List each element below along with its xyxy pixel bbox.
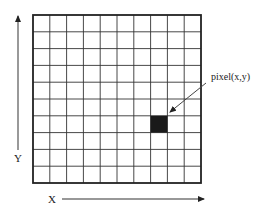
highlighted-pixel xyxy=(151,116,168,133)
y-axis-label: Y xyxy=(14,152,22,164)
x-axis-label: X xyxy=(48,193,56,205)
pixel-grid xyxy=(33,15,201,183)
pixel-grid-diagram: Y X pixel(x,y) xyxy=(0,0,258,213)
pixel-label: pixel(x,y) xyxy=(211,71,250,83)
